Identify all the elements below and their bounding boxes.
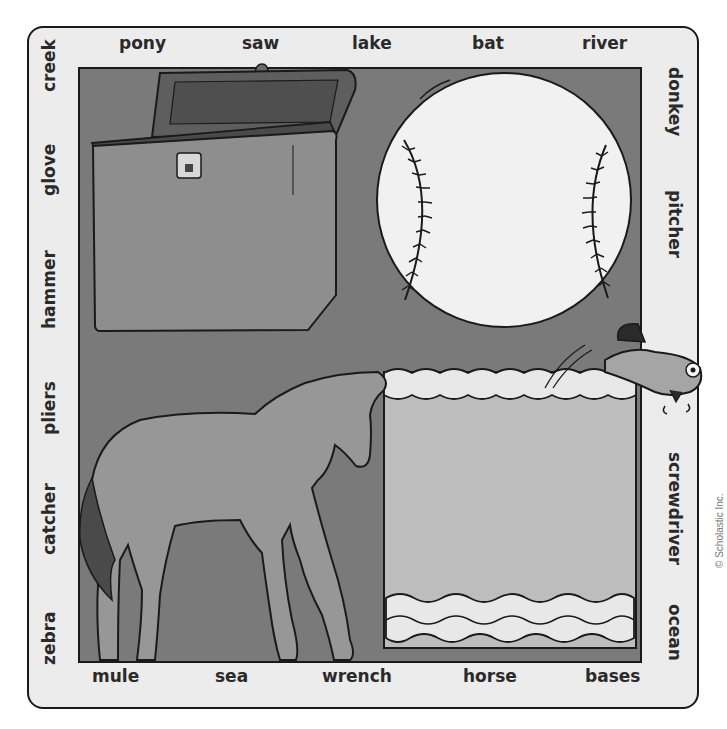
word-right-screwdriver[interactable]: screwdriver [666, 452, 683, 565]
word-bottom-mule[interactable]: mule [92, 668, 139, 685]
word-top-river[interactable]: river [582, 35, 627, 52]
word-left-catcher[interactable]: catcher [41, 483, 58, 555]
copyright-text: © Scholastic Inc. [714, 493, 725, 568]
word-left-glove[interactable]: glove [41, 144, 58, 196]
illustration [0, 0, 727, 729]
word-bottom-wrench[interactable]: wrench [322, 668, 392, 685]
horse-icon [80, 372, 386, 660]
word-left-zebra[interactable]: zebra [41, 612, 58, 665]
water-icon [384, 369, 636, 648]
toolbox-icon [92, 64, 356, 331]
word-right-ocean[interactable]: ocean [666, 604, 683, 661]
word-left-creek[interactable]: creek [41, 39, 58, 92]
word-top-saw[interactable]: saw [242, 35, 279, 52]
word-right-pitcher[interactable]: pitcher [666, 190, 683, 258]
word-top-lake[interactable]: lake [352, 35, 392, 52]
word-top-pony[interactable]: pony [119, 35, 166, 52]
word-left-hammer[interactable]: hammer [41, 250, 58, 329]
word-bottom-horse[interactable]: horse [463, 668, 517, 685]
word-right-donkey[interactable]: donkey [666, 67, 683, 136]
baseball-icon [377, 73, 631, 327]
word-top-bat[interactable]: bat [472, 35, 504, 52]
word-bottom-sea[interactable]: sea [215, 668, 248, 685]
word-bottom-bases[interactable]: bases [585, 668, 640, 685]
word-left-pliers[interactable]: pliers [41, 381, 58, 435]
